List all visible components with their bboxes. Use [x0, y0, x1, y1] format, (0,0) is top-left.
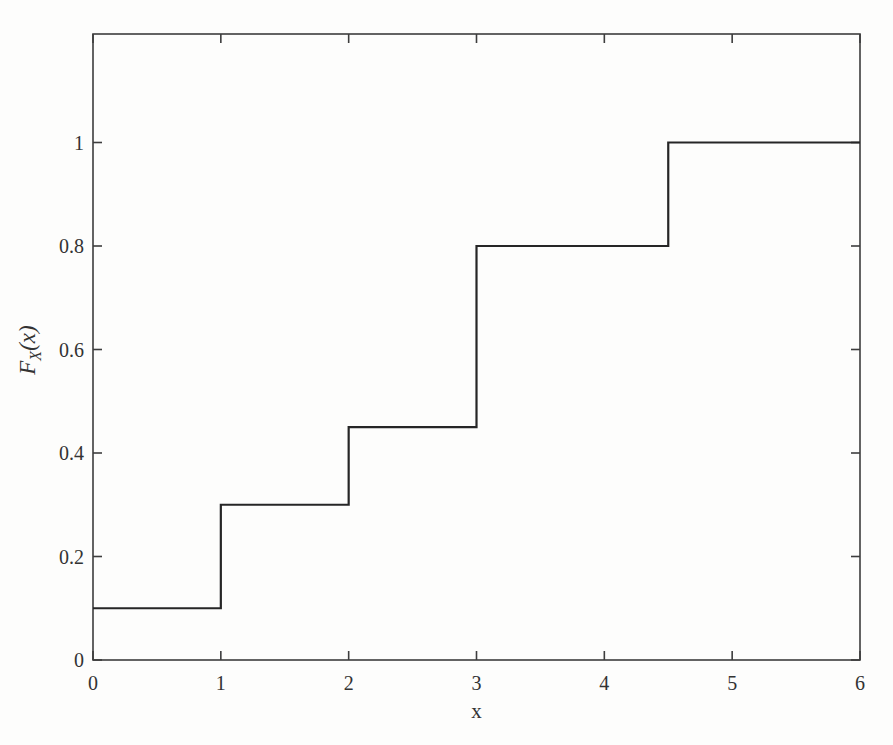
x-axis-label: x [471, 699, 482, 723]
y-tick-label: 0.8 [59, 235, 84, 257]
chart-canvas: 012345600.20.40.60.81xFX(x) [0, 0, 893, 745]
y-tick-label: 0.2 [59, 546, 84, 568]
x-tick-label: 3 [472, 672, 482, 694]
y-tick-label: 1 [74, 132, 84, 154]
y-tick-label: 0.4 [59, 442, 84, 464]
x-tick-label: 2 [344, 672, 354, 694]
y-axis-label: FX(x) [15, 325, 44, 375]
x-tick-label: 5 [727, 672, 737, 694]
x-tick-label: 6 [855, 672, 865, 694]
x-tick-label: 0 [88, 672, 98, 694]
x-tick-label: 1 [216, 672, 226, 694]
y-tick-label: 0.6 [59, 339, 84, 361]
x-tick-label: 4 [599, 672, 609, 694]
y-tick-label: 0 [74, 649, 84, 671]
cdf-step-figure: 012345600.20.40.60.81xFX(x) [0, 0, 893, 745]
cdf-step-line [93, 143, 860, 609]
